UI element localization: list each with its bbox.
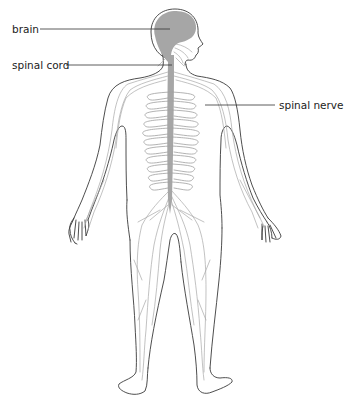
limb-nerves xyxy=(84,72,264,380)
spinal-cord-shape xyxy=(167,55,174,214)
brain-label: brain xyxy=(12,23,39,35)
brain-shape xyxy=(154,11,196,62)
spinal-cord-label: spinal cord xyxy=(12,59,69,71)
spinal-nerve-label: spinal nerve xyxy=(279,99,344,111)
body-outline xyxy=(69,9,281,394)
